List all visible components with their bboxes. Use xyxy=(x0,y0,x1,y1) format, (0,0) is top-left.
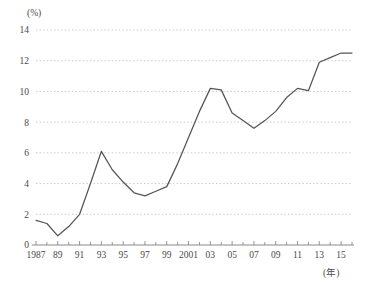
y-axis-tick-label: 2 xyxy=(24,210,29,220)
x-axis-tick-labels-group: 1987899193959799200103050709111315 xyxy=(27,250,347,260)
y-axis-tick-labels-group: 02468101214 xyxy=(20,25,30,250)
y-axis-tick-label: 4 xyxy=(24,179,29,189)
x-axis-tick-label: 05 xyxy=(227,250,237,260)
x-axis-tick-label: 95 xyxy=(118,250,128,260)
x-axis-ticks-group xyxy=(36,241,352,245)
data-series-line xyxy=(36,53,352,236)
x-axis-tick-label: 89 xyxy=(53,250,63,260)
y-axis-tick-label: 8 xyxy=(24,118,29,128)
x-axis-unit-label: (年) xyxy=(323,265,339,279)
gridlines-group xyxy=(36,30,352,214)
x-axis-tick-label: 97 xyxy=(140,250,150,260)
x-axis-tick-label: 13 xyxy=(315,250,325,260)
y-axis-tick-label: 6 xyxy=(24,148,29,158)
y-axis-unit-label: (%) xyxy=(27,8,41,18)
x-axis-tick-label: 09 xyxy=(271,250,281,260)
chart-plot-area: 02468101214 1987899193959799200103050709… xyxy=(0,0,375,284)
y-axis-tick-label: 14 xyxy=(20,25,30,35)
x-axis-tick-label: 2001 xyxy=(179,250,198,260)
y-axis-tick-label: 12 xyxy=(20,56,30,66)
x-axis-tick-label: 91 xyxy=(75,250,85,260)
x-axis-tick-label: 15 xyxy=(336,250,346,260)
x-axis-tick-label: 99 xyxy=(162,250,172,260)
x-axis-tick-label: 1987 xyxy=(27,250,46,260)
x-axis-tick-label: 07 xyxy=(249,250,259,260)
y-axis-tick-label: 0 xyxy=(24,240,29,250)
line-chart: (%) (年) 02468101214 19878991939597992001… xyxy=(0,0,375,284)
x-axis-tick-label: 93 xyxy=(97,250,107,260)
x-axis-tick-label: 03 xyxy=(206,250,216,260)
y-axis-tick-label: 10 xyxy=(20,87,30,97)
x-axis-tick-label: 11 xyxy=(293,250,302,260)
